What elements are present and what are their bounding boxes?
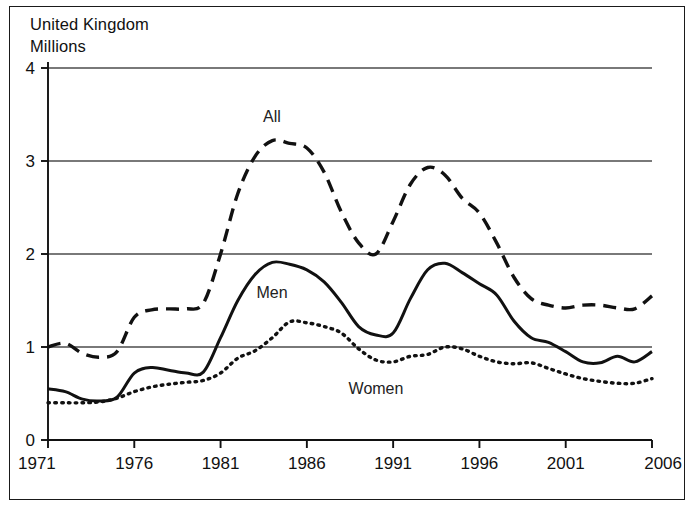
y-tick-labels-group: 01234 [26, 59, 35, 450]
line-chart-plot: 01234 19711976198119861991199620012006 A… [0, 0, 694, 507]
x-axis-ticks-group [48, 440, 652, 448]
y-tick-label: 4 [26, 59, 35, 78]
series-label-all: All [263, 108, 281, 125]
series-line-all [48, 140, 652, 357]
x-tick-label: 1976 [115, 454, 153, 473]
chart-figure: United Kingdom Millions 01234 1971197619… [0, 0, 694, 507]
series-annotations-group: AllMenWomen [256, 108, 403, 397]
x-tick-label: 1986 [288, 454, 326, 473]
x-tick-label: 1991 [374, 454, 412, 473]
y-axis-ticks-group [41, 68, 48, 440]
x-tick-label: 2006 [644, 454, 682, 473]
x-tick-label: 1971 [18, 454, 56, 473]
x-tick-label: 1981 [202, 454, 240, 473]
y-tick-label: 2 [26, 245, 35, 264]
x-tick-label: 1996 [461, 454, 499, 473]
series-label-women: Women [349, 380, 404, 397]
y-tick-label: 0 [26, 431, 35, 450]
x-tick-label: 2001 [547, 454, 585, 473]
gridlines-group [48, 68, 652, 347]
x-tick-labels-group: 19711976198119861991199620012006 [18, 454, 682, 473]
y-tick-label: 1 [26, 338, 35, 357]
y-tick-label: 3 [26, 152, 35, 171]
series-paths-group [48, 140, 652, 403]
series-label-men: Men [256, 284, 287, 301]
